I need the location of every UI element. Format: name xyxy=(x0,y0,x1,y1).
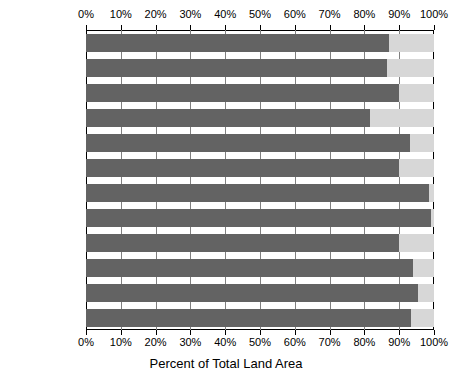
bar-row xyxy=(86,184,434,202)
bar xyxy=(86,234,399,252)
x-axis-tick-top xyxy=(86,25,87,30)
x-axis-tick-label: 0% xyxy=(78,336,94,348)
x-axis-tick-label: 10% xyxy=(110,336,132,348)
bar-row xyxy=(86,59,434,77)
x-axis-tick-label: 40% xyxy=(214,8,236,20)
x-axis-tick-bottom xyxy=(86,330,87,335)
x-axis-tick-top xyxy=(330,25,331,30)
x-axis-tick-bottom xyxy=(364,330,365,335)
bar-row xyxy=(86,84,434,102)
plot-area xyxy=(86,30,434,330)
bar-row xyxy=(86,309,434,327)
x-axis-tick-label: 100% xyxy=(420,336,448,348)
x-axis-tick-bottom xyxy=(434,330,435,335)
bar xyxy=(86,34,389,52)
x-axis-tick-label: 90% xyxy=(388,8,410,20)
x-axis-tick-top xyxy=(121,25,122,30)
x-axis-tick-top xyxy=(225,25,226,30)
bar xyxy=(86,309,411,327)
bar-row xyxy=(86,34,434,52)
x-axis-tick-label: 20% xyxy=(145,336,167,348)
x-axis-tick-top xyxy=(156,25,157,30)
bar-row xyxy=(86,209,434,227)
x-axis-tick-label: 40% xyxy=(214,336,236,348)
x-axis-tick-top xyxy=(260,25,261,30)
x-axis-tick-label: 0% xyxy=(78,8,94,20)
bar xyxy=(86,284,418,302)
x-axis-tick-top xyxy=(434,25,435,30)
x-axis-tick-label: 80% xyxy=(353,8,375,20)
bar xyxy=(86,259,413,277)
x-axis-tick-label: 50% xyxy=(249,336,271,348)
x-axis-tick-label: 60% xyxy=(284,8,306,20)
x-axis-tick-label: 20% xyxy=(145,8,167,20)
x-axis-title: Percent of Total Land Area xyxy=(0,356,452,371)
x-axis-tick-top xyxy=(190,25,191,30)
bar xyxy=(86,134,410,152)
x-axis-tick-label: 70% xyxy=(319,8,341,20)
bar-row xyxy=(86,134,434,152)
x-axis-tick-bottom xyxy=(260,330,261,335)
x-axis-tick-bottom xyxy=(295,330,296,335)
x-axis-tick-bottom xyxy=(225,330,226,335)
bar xyxy=(86,84,399,102)
bar xyxy=(86,109,370,127)
x-axis-tick-top xyxy=(295,25,296,30)
x-axis-tick-bottom xyxy=(330,330,331,335)
bar-row xyxy=(86,159,434,177)
x-axis-tick-top xyxy=(364,25,365,30)
x-axis-tick-label: 30% xyxy=(179,8,201,20)
x-axis-tick-top xyxy=(399,25,400,30)
bar xyxy=(86,209,431,227)
bar-row xyxy=(86,259,434,277)
bar xyxy=(86,59,387,77)
bar-row xyxy=(86,109,434,127)
x-axis-tick-label: 10% xyxy=(110,8,132,20)
bar-chart: 0%10%20%30%40%50%60%70%80%90%100% 0%10%2… xyxy=(0,0,452,378)
x-axis-tick-bottom xyxy=(156,330,157,335)
x-axis-tick-label: 50% xyxy=(249,8,271,20)
x-axis-tick-bottom xyxy=(121,330,122,335)
bar xyxy=(86,184,429,202)
x-axis-tick-label: 60% xyxy=(284,336,306,348)
x-axis-tick-label: 100% xyxy=(420,8,448,20)
x-axis-tick-label: 30% xyxy=(179,336,201,348)
x-axis-tick-bottom xyxy=(399,330,400,335)
bar-row xyxy=(86,284,434,302)
x-axis-tick-label: 90% xyxy=(388,336,410,348)
bar-row xyxy=(86,234,434,252)
bar xyxy=(86,159,399,177)
x-axis-tick-label: 70% xyxy=(319,336,341,348)
x-axis-tick-bottom xyxy=(190,330,191,335)
x-axis-tick-label: 80% xyxy=(353,336,375,348)
